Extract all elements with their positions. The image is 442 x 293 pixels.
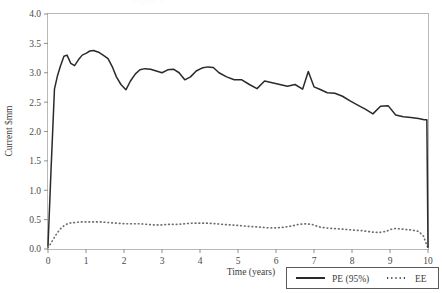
legend-label-pe: PE (95%) — [332, 274, 369, 285]
x-tick-label: 2 — [122, 256, 127, 266]
y-axis-title: Current $mm — [4, 105, 14, 157]
chart-legend: PE (95%) EE — [287, 268, 439, 289]
x-axis-title: Time (years) — [227, 267, 275, 278]
x-tick-label: 3 — [160, 256, 165, 266]
y-tick-label: 2.5 — [29, 98, 41, 108]
y-tick-label: 4.0 — [29, 9, 41, 19]
y-tick-label: 3.0 — [29, 68, 41, 78]
x-tick-label: 5 — [236, 256, 241, 266]
faint-cropped-header: Figure 1 — [133, 0, 313, 5]
x-axis-tick-labels: 012345678910 — [46, 256, 433, 266]
y-axis-tick-labels: 0.00.51.01.52.02.53.03.54.0 — [29, 9, 41, 254]
x-tick-label: 10 — [423, 256, 433, 266]
y-tick-label: 1.5 — [29, 156, 41, 166]
y-tick-label: 2.0 — [29, 127, 41, 137]
series-line-pe — [48, 50, 428, 247]
legend-label-ee: EE — [415, 274, 427, 284]
x-tick-label: 7 — [312, 256, 317, 266]
x-tick-label: 1 — [84, 256, 89, 266]
chart-figure: Figure 1 0.00.51.01.52.02.53.03.54.0 012… — [0, 0, 442, 293]
x-tick-label: 0 — [46, 256, 51, 266]
plot-frame — [48, 14, 429, 250]
series-line-ee — [48, 222, 428, 248]
y-tick-label: 1.0 — [29, 186, 41, 196]
y-tick-label: 0.0 — [29, 244, 41, 254]
x-tick-label: 4 — [198, 256, 203, 266]
x-tick-label: 6 — [274, 256, 279, 266]
line-chart: 0.00.51.01.52.02.53.03.54.0 012345678910… — [0, 0, 442, 293]
x-tick-label: 8 — [350, 256, 355, 266]
x-tick-label: 9 — [388, 256, 393, 266]
y-tick-label: 0.5 — [29, 215, 41, 225]
y-tick-label: 3.5 — [29, 39, 41, 49]
